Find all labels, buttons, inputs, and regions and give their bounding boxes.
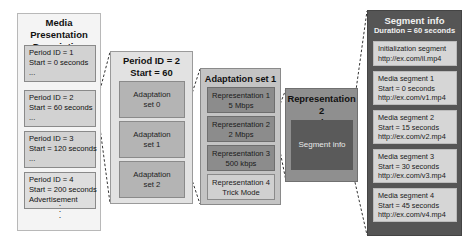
media-segment-box-3: Media segment 3 Start = 30 seconds http:… [373, 149, 457, 183]
period-id: Period ID = 3 [29, 134, 95, 144]
segment-info-title: Segment info [368, 15, 461, 26]
period-box-2: Period ID = 2 Start = 60 seconds ... [24, 90, 96, 127]
adaptation-set-label: Adaptation [120, 90, 184, 100]
adaptation-set-box-1: Adaptation set 1 [119, 121, 185, 158]
period-id: Period ID = 4 [29, 175, 95, 185]
representation-box-2: Representation 2 2 Mbps [207, 116, 275, 142]
representation-bitrate: 500 kbps [208, 159, 274, 169]
period-start: Start = 200 seconds [29, 185, 95, 195]
representation-detail-label: Representation 2 [286, 93, 357, 117]
representation-bitrate: 2 Mbps [208, 130, 274, 140]
representation-box-3: Representation 3 500 kbps [207, 145, 275, 171]
segment-start: Start = 45 seconds [378, 201, 456, 211]
segment-label: Initialization segment [378, 44, 456, 54]
period-detail-panel: Period ID = 2 Start = 60 seconds Adaptat… [110, 51, 193, 204]
representation-label: Representation 2 [208, 120, 274, 130]
adaptation-set-number: set 1 [120, 140, 184, 150]
segment-url: http://ex.com/v1.mp4 [378, 93, 456, 103]
period-more: ... [29, 154, 95, 164]
segment-start: Start = 15 seconds [378, 123, 456, 133]
initialization-segment-box: Initialization segment http://ex.com/il.… [373, 41, 457, 66]
segment-info-panel: Segment info Duration = 60 seconds Initi… [367, 10, 462, 236]
representation-detail-panel: Representation 2 2 Mbps Segment info [285, 88, 358, 182]
segment-label: Media segment 4 [378, 191, 456, 201]
adaptation-set-detail-title: Adaptation set 1 [201, 73, 280, 85]
segment-label: Media segment 1 [378, 74, 456, 84]
adaptation-set-detail-panel: Adaptation set 1 Representation 1 5 Mbps… [200, 68, 281, 205]
period-start: Start = 60 seconds [29, 103, 95, 113]
adaptation-set-box-2: Adaptation set 2 [119, 161, 185, 198]
mpd-panel: Media Presentation Description Period ID… [17, 13, 101, 231]
representation-bitrate: 5 Mbps [208, 101, 274, 111]
media-segment-box-4: Media segment 4 Start = 45 seconds http:… [373, 188, 457, 222]
period-detail-id: Period ID = 2 [111, 55, 192, 67]
segment-url: http://ex.com/v3.mp4 [378, 171, 456, 181]
representation-label: Representation 1 [208, 91, 274, 101]
more-periods-ellipsis: ··· [56, 202, 64, 220]
segment-start: Start = 0 seconds [378, 84, 456, 94]
segment-label: Media segment 3 [378, 152, 456, 162]
adaptation-set-number: set 0 [120, 100, 184, 110]
period-start: Start = 0 seconds [29, 58, 95, 68]
period-box-3: Period ID = 3 Start = 120 seconds ... [24, 131, 96, 168]
segment-info-box: Segment info [291, 120, 353, 170]
segment-url: http://ex.com/v2.mp4 [378, 132, 456, 142]
segment-start: Start = 30 seconds [378, 162, 456, 172]
adaptation-set-label: Adaptation [120, 170, 184, 180]
mpd-title-line1: Media Presentation [18, 17, 100, 41]
representation-mode: Trick Mode [208, 188, 274, 198]
period-box-1: Period ID = 1 Start = 0 seconds ... [24, 45, 96, 82]
period-id: Period ID = 2 [29, 93, 95, 103]
representation-box-4: Representation 4 Trick Mode [207, 174, 275, 200]
media-segment-box-2: Media segment 2 Start = 15 seconds http:… [373, 110, 457, 144]
segment-url: http://ex.com/il.mp4 [378, 54, 456, 64]
period-more: ... [29, 113, 95, 123]
segment-info-duration: Duration = 60 seconds [368, 26, 461, 35]
adaptation-set-number: set 2 [120, 180, 184, 190]
period-start: Start = 120 seconds [29, 144, 95, 154]
segment-url: http://ex.com/v4.mp4 [378, 210, 456, 220]
media-segment-box-1: Media segment 1 Start = 0 seconds http:/… [373, 71, 457, 105]
period-id: Period ID = 1 [29, 48, 95, 58]
adaptation-set-label: Adaptation [120, 130, 184, 140]
adaptation-set-box-0: Adaptation set 0 [119, 81, 185, 118]
period-more: ... [29, 68, 95, 78]
representation-label: Representation 4 [208, 178, 274, 188]
representation-label: Representation 3 [208, 149, 274, 159]
segment-label: Media segment 2 [378, 113, 456, 123]
representation-box-1: Representation 1 5 Mbps [207, 87, 275, 113]
